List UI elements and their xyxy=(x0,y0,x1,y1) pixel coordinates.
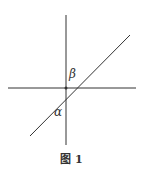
beta-label: β xyxy=(68,67,76,81)
alpha-label: α xyxy=(54,105,62,119)
diagonal-line xyxy=(30,35,130,136)
intersection-point xyxy=(65,87,68,90)
figure-caption: 图 1 xyxy=(0,150,143,166)
